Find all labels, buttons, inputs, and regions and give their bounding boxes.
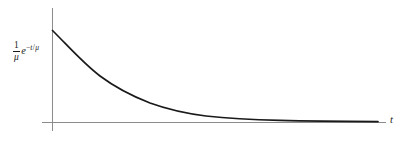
fraction-denominator: μ bbox=[13, 52, 20, 62]
exponent-denominator: μ bbox=[35, 43, 39, 52]
x-axis-label: t bbox=[390, 115, 393, 126]
exponential-pdf-figure: 1 μ e−t/μ t bbox=[0, 0, 411, 142]
exponential-curve bbox=[53, 31, 379, 122]
plot-area bbox=[0, 0, 411, 142]
one-over-mu-fraction: 1 μ bbox=[13, 41, 20, 62]
y-axis-label: 1 μ e−t/μ bbox=[13, 41, 39, 62]
exponent-group: −t/μ bbox=[26, 43, 39, 52]
fraction-numerator: 1 bbox=[13, 41, 20, 52]
exponential-expression: e−t/μ bbox=[21, 46, 39, 57]
